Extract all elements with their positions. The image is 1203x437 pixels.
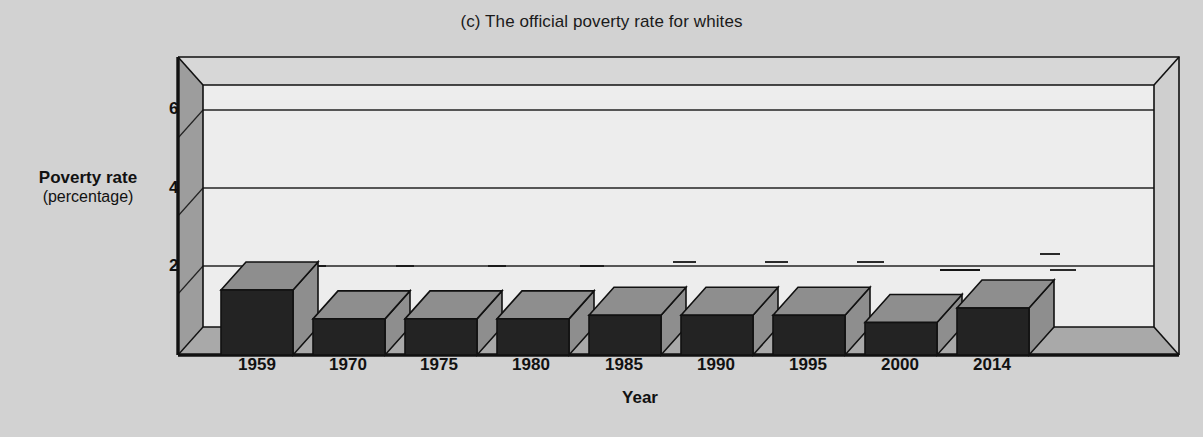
bar-front-face — [497, 319, 569, 355]
top-wall — [178, 57, 1179, 85]
bar-1959 — [221, 262, 318, 355]
bar-front-face — [221, 290, 293, 355]
right-wall — [1154, 57, 1179, 355]
left-wall — [178, 57, 203, 355]
bar-2014 — [957, 280, 1054, 355]
bar-front-face — [313, 319, 385, 355]
bar-front-face — [773, 315, 845, 355]
bar-front-face — [957, 308, 1029, 355]
poverty-rate-chart: (c) The official poverty rate for whites… — [0, 0, 1203, 437]
bar-front-face — [405, 319, 477, 355]
plot-area — [0, 0, 1203, 437]
bar-front-face — [865, 322, 937, 355]
bar-front-face — [681, 315, 753, 355]
bar-front-face — [589, 315, 661, 355]
